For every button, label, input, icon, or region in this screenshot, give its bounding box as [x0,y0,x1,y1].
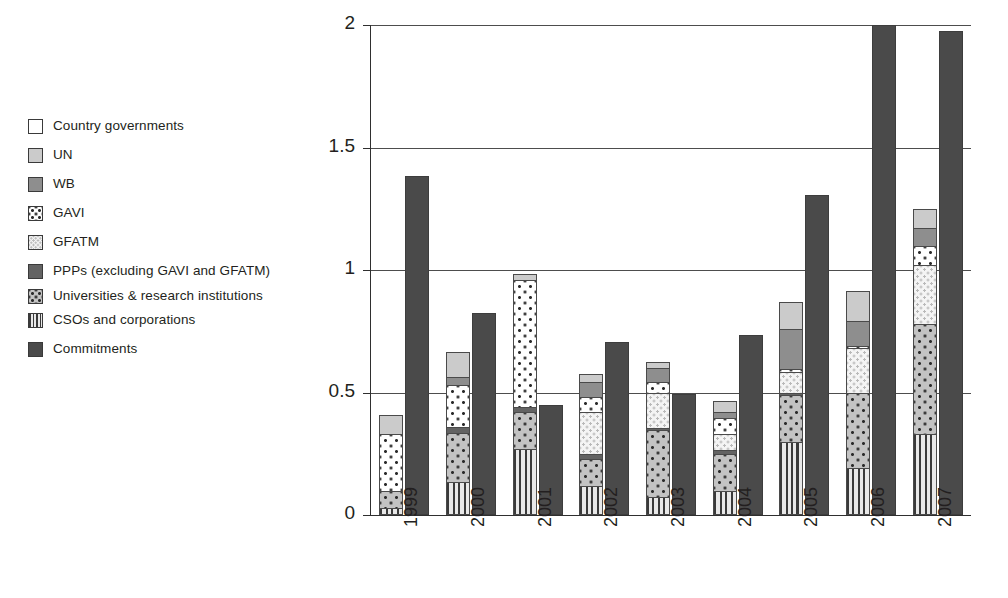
bar-segment-2002-wb [579,382,603,398]
bar-segment-2003-gfatm [646,393,670,429]
bar-segment-2004-gavi [713,418,737,434]
stacked-bar-2005 [779,302,803,515]
commitments-bar-1999 [405,176,429,515]
bar-segment-2006-gfatm [846,348,870,392]
bar-segment-2006-un [846,291,870,322]
bar-segment-2004-univ [713,454,737,491]
bar-segment-2007-csos [913,434,937,515]
bar-segment-2002-univ [579,459,603,486]
y-axis-tick-label: 1 [344,257,355,279]
x-axis-tick-label-1999: 1999 [401,487,422,527]
bar-segment-2007-univ [913,324,937,434]
bar-segment-2004-gfatm [713,434,737,450]
commitments-bar-2000 [472,313,496,515]
bar-segment-2000-wb [446,377,470,386]
bar-segment-2003-gavi [646,382,670,393]
bar-segment-2000-csos [446,482,470,515]
stacked-bar-2004 [713,401,737,515]
x-axis-tick-label-2003: 2003 [668,487,689,527]
bar-segment-2001-gavi [513,280,537,407]
bar-segment-2002-gavi [579,397,603,412]
bar-segment-2004-un [713,401,737,412]
bar-segment-1999-gavi [379,434,403,490]
chart-plot-area: Billions of 2007 US Dollars 00.511.52 19… [0,0,1008,598]
y-axis-tick [363,148,371,149]
y-axis-tick-label: 2 [344,12,355,34]
bar-segment-2002-gfatm [579,412,603,454]
stacked-bar-2006 [846,291,870,515]
bar-segment-2003-wb [646,368,670,381]
bar-group-2006: 2006 [838,25,905,515]
bar-segment-2005-univ [779,395,803,442]
bar-segment-2004-csos [713,491,737,516]
bar-segment-2005-csos [779,442,803,516]
bar-group-2007: 2007 [904,25,971,515]
stacked-bar-2007 [913,209,937,515]
bar-segment-2005-gfatm [779,372,803,393]
bar-group-2004: 2004 [704,25,771,515]
stacked-bar-1999 [379,415,403,515]
bar-group-2001: 2001 [504,25,571,515]
x-axis-tick-label-2002: 2002 [601,487,622,527]
bar-segment-2002-un [579,374,603,381]
bar-group-2005: 2005 [771,25,838,515]
x-axis-tick-label-2006: 2006 [868,487,889,527]
stacked-bar-2003 [646,362,670,515]
x-axis-tick-label-2007: 2007 [935,487,956,527]
y-axis-tick [363,25,371,26]
bar-segment-1999-csos [379,508,403,515]
bar-segment-2007-gfatm [913,265,937,324]
bar-group-2003: 2003 [638,25,705,515]
bar-segment-2006-wb [846,321,870,346]
bar-segment-2007-gavi [913,246,937,266]
bar-segment-2006-csos [846,468,870,515]
bar-segment-2001-csos [513,449,537,515]
bar-segment-2000-univ [446,433,470,482]
bar-segment-2007-wb [913,228,937,245]
y-axis-tick-label: 1.5 [329,135,355,157]
bar-segment-2003-univ [646,430,670,496]
y-axis-tick [363,393,371,394]
bar-segment-2006-univ [846,393,870,469]
bar-group-2002: 2002 [571,25,638,515]
commitments-bar-2007 [939,31,963,515]
bar-segment-2001-univ [513,412,537,449]
bar-segment-1999-univ [379,491,403,508]
plot-canvas: Billions of 2007 US Dollars 00.511.52 19… [370,25,971,516]
stacked-bar-2001 [513,274,537,515]
x-axis-tick-label-2004: 2004 [735,487,756,527]
bar-segment-2005-un [779,302,803,329]
commitments-bar-2005 [805,195,829,515]
bar-group-2000: 2000 [438,25,505,515]
stacked-bar-2000 [446,352,470,515]
bar-segment-1999-un [379,415,403,435]
stacked-bar-2002 [579,374,603,515]
x-axis-tick-label-2001: 2001 [535,487,556,527]
x-axis-tick-label-2000: 2000 [468,487,489,527]
x-axis-tick-label-2005: 2005 [801,487,822,527]
bar-segment-2000-un [446,352,470,377]
y-axis-tick [363,270,371,271]
y-axis-tick-label: 0 [344,502,355,524]
bar-group-1999: 1999 [371,25,438,515]
bar-segment-2005-wb [779,329,803,369]
commitments-bar-2006 [872,25,896,515]
bar-segment-2007-un [913,209,937,229]
bar-segment-2000-gavi [446,385,470,427]
y-axis-tick-label: 0.5 [329,380,355,402]
bar-segment-2002-csos [579,486,603,515]
bar-segment-2003-csos [646,497,670,515]
y-axis-tick [363,515,371,516]
